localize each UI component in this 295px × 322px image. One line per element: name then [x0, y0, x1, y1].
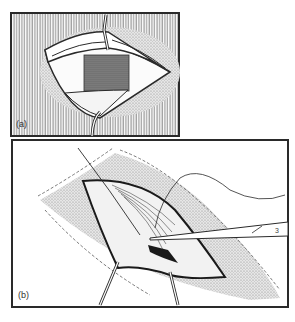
panel-a [11, 13, 180, 136]
panel-b-label: (b) [18, 290, 29, 300]
panel-a-label: (a) [16, 119, 27, 129]
panel-b: 3 [12, 140, 288, 307]
figure-canvas: 3 [0, 0, 295, 322]
instrument-mark: 3 [275, 227, 279, 234]
